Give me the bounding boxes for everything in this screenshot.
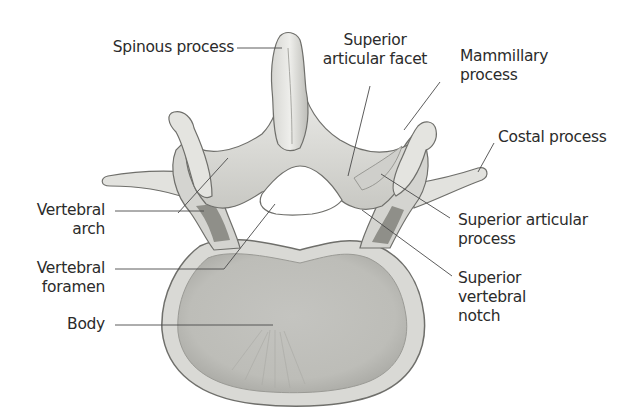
label-vertebral-arch: Vertebral arch xyxy=(37,201,105,239)
label-body: Body xyxy=(67,315,105,334)
label-spinous-process: Spinous process xyxy=(113,38,234,57)
label-superior-vertebral-notch: Superior vertebral notch xyxy=(458,269,526,326)
label-costal-process: Costal process xyxy=(498,128,607,147)
label-vertebral-foramen: Vertebral foramen xyxy=(37,259,105,297)
label-mammillary-process: Mammillary process xyxy=(460,47,548,85)
spinous-process-shape xyxy=(271,33,308,151)
vertebra-diagram: Spinous process Superior articular facet… xyxy=(0,0,624,415)
leader-costal-process xyxy=(478,143,494,172)
vertebral-body-shape xyxy=(162,239,425,406)
label-superior-articular-facet: Superior articular facet xyxy=(316,31,434,69)
label-superior-articular-process: Superior articular process xyxy=(458,211,588,249)
